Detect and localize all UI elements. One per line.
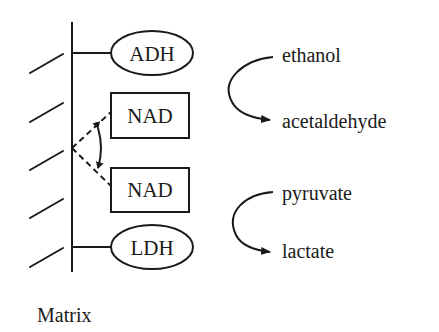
reaction-arrow-icon [233, 192, 273, 252]
hatch-line [30, 103, 63, 122]
ldh-enzyme: LDH [111, 225, 193, 269]
nad-top: NAD [111, 93, 189, 138]
tether-to-nad-top [72, 112, 111, 148]
ldh-label: LDH [130, 236, 173, 260]
reaction-adh: ethanol acetaldehyde [229, 44, 387, 133]
nad-bottom-label: NAD [127, 178, 173, 202]
enzyme-membrane-diagram: ADH NAD NAD LDH ethanol acetaldehyde pyr… [0, 0, 439, 332]
adh-enzyme: ADH [111, 31, 193, 75]
reaction-ldh: pyruvate lactate [233, 182, 352, 262]
nad-top-label: NAD [127, 104, 173, 128]
swing-arrow-icon [98, 128, 101, 168]
nad-bottom: NAD [111, 168, 189, 212]
hatch-line [30, 248, 63, 267]
hatch-line [30, 151, 63, 170]
substrate-ethanol: ethanol [282, 44, 341, 66]
hatch-line [30, 199, 63, 218]
adh-label: ADH [129, 42, 175, 66]
substrate-pyruvate: pyruvate [282, 182, 352, 205]
matrix-hatching [30, 54, 63, 267]
product-acetaldehyde: acetaldehyde [282, 110, 386, 133]
hatch-line [30, 54, 63, 73]
tether-to-nad-bottom [72, 148, 111, 186]
matrix-label: Matrix [37, 304, 91, 326]
reaction-arrow-icon [229, 57, 273, 120]
product-lactate: lactate [282, 240, 334, 262]
nad-tether [72, 112, 111, 186]
